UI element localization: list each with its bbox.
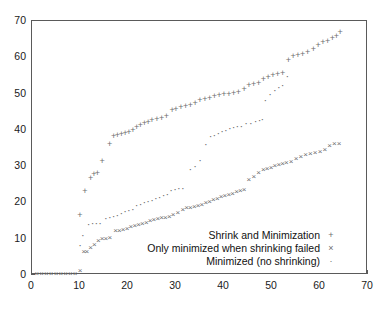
x-axis-tick-label: 50: [256, 280, 286, 291]
x-axis-tick-label: 60: [304, 280, 334, 291]
x-axis-tick-label: 40: [208, 280, 238, 291]
y-axis-tick-label: 20: [0, 196, 26, 207]
x-axis-tick-label: 20: [112, 280, 142, 291]
legend-item: Minimized (no shrinking) ·: [206, 255, 342, 267]
y-axis-tick-label: 40: [0, 124, 26, 135]
legend-item: Shrink and Minimization +: [209, 229, 342, 241]
y-axis-tick-label: 60: [0, 51, 26, 62]
data-point-marker: ·: [179, 184, 187, 192]
data-point-marker: ·: [283, 72, 291, 80]
legend-label: Minimized (no shrinking): [206, 255, 320, 267]
legend-marker-cross-icon: ×: [320, 242, 342, 254]
y-axis-tick-label: 30: [0, 160, 26, 171]
data-point-marker: ·: [76, 241, 84, 249]
data-point-marker: ·: [79, 231, 87, 239]
y-axis-tick-label: 50: [0, 88, 26, 99]
x-axis-tick-label: 30: [160, 280, 190, 291]
x-axis-tick-label: 0: [16, 280, 46, 291]
legend-label: Shrink and Minimization: [209, 229, 320, 241]
data-point-marker: ·: [279, 81, 287, 89]
x-axis-tick-mark: [367, 270, 368, 274]
data-point-marker: ·: [258, 115, 266, 123]
y-axis-tick-label: 10: [0, 233, 26, 244]
y-axis-tick-label: 0: [0, 269, 26, 280]
data-point-marker: ·: [196, 156, 204, 164]
scatter-chart-figure: 010203040506070 010203040506070 ++++++++…: [0, 0, 391, 313]
plot-area: ++++++++++++++++++++++++++++++++++++++++…: [31, 20, 367, 274]
legend-label: Only minimized when shrinking failed: [147, 242, 320, 254]
x-axis-tick-label: 10: [64, 280, 94, 291]
legend-item: Only minimized when shrinking failed ×: [147, 242, 342, 254]
chart-legend: Shrink and Minimization + Only minimized…: [147, 229, 342, 267]
legend-marker-plus-icon: +: [320, 229, 342, 241]
x-axis-tick-label: 70: [352, 280, 382, 291]
legend-marker-dot-icon: ·: [320, 255, 342, 267]
y-axis-tick-label: 70: [0, 15, 26, 26]
